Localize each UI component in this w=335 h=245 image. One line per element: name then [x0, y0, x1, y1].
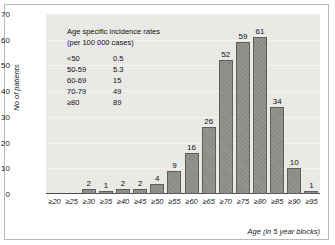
annotation-row: ≥8089 — [67, 98, 123, 109]
x-tick-label: ≥60 — [183, 197, 200, 206]
x-axis-title: Age (in 5 year blocks) — [247, 227, 320, 236]
annotation-rate-value: 0.5 — [113, 54, 123, 65]
bar-slot: 1 — [303, 14, 320, 194]
x-tick-label: ≥80 — [252, 197, 269, 206]
bar — [270, 107, 284, 194]
annotation-rate-value: 15 — [113, 76, 123, 87]
annotation-title-line2: (per 100 000 cases) — [67, 38, 160, 49]
y-axis-title: No of patients — [12, 53, 21, 123]
bar-slot: 26 — [200, 14, 217, 194]
chart-figure: No of patients 010203040506070 212249162… — [4, 4, 329, 240]
x-tick-label: ≥75 — [234, 197, 251, 206]
annotation-age-group: 70-79 — [67, 87, 113, 98]
bar-slot — [46, 14, 63, 194]
annotation-rate-value: 5.3 — [113, 65, 123, 76]
annotation-age-group: <50 — [67, 54, 113, 65]
bar — [116, 189, 130, 194]
bar-slot: 16 — [183, 14, 200, 194]
bar — [150, 184, 164, 194]
x-tick-label: ≥35 — [97, 197, 114, 206]
annotation-row: 50-595.3 — [67, 65, 123, 76]
x-tick-label: ≥70 — [217, 197, 234, 206]
bar — [236, 42, 250, 194]
x-tick-label: ≥85 — [269, 197, 286, 206]
x-tick-label: ≥65 — [200, 197, 217, 206]
x-tick-label: ≥40 — [115, 197, 132, 206]
x-tick-label: ≥20 — [46, 197, 63, 206]
bar-slot: 59 — [234, 14, 251, 194]
x-tick-label: ≥50 — [149, 197, 166, 206]
y-tick-label: 20 — [0, 138, 10, 147]
y-tick-label: 50 — [0, 61, 10, 70]
bar — [219, 60, 233, 194]
y-tick-label: 10 — [0, 164, 10, 173]
annotation-rate-value: 49 — [113, 87, 123, 98]
bar-value-label: 1 — [299, 181, 324, 190]
x-tick-label: ≥90 — [286, 197, 303, 206]
bar-slot: 9 — [166, 14, 183, 194]
y-tick-label: 30 — [0, 112, 10, 121]
y-tick-label: 0 — [0, 190, 10, 199]
annotation-title-line1: Age specific incidence rates — [67, 27, 160, 38]
annotation-rate-value: 89 — [113, 98, 123, 109]
x-tick-label: ≥55 — [166, 197, 183, 206]
x-tick-label: ≥95 — [303, 197, 320, 206]
annotation-table: <500.550-595.360-691570-7949≥8089 — [67, 54, 123, 109]
bar — [99, 191, 113, 194]
annotation-age-group: ≥80 — [67, 98, 113, 109]
bar-slot: 10 — [286, 14, 303, 194]
incidence-rate-annotation: Age specific incidence rates (per 100 00… — [67, 27, 160, 109]
bar — [253, 37, 267, 194]
bar — [304, 191, 318, 194]
y-tick-label: 70 — [0, 10, 10, 19]
bar — [167, 171, 181, 194]
annotation-row: <500.5 — [67, 54, 123, 65]
bar — [133, 189, 147, 194]
x-axis-ticks: ≥20≥25≥30≥35≥40≥45≥50≥55≥60≥65≥70≥75≥80≥… — [46, 195, 320, 211]
x-tick-label: ≥25 — [63, 197, 80, 206]
x-tick-label: ≥45 — [132, 197, 149, 206]
bar — [202, 127, 216, 194]
bar — [185, 153, 199, 194]
annotation-row: 60-6915 — [67, 76, 123, 87]
y-tick-label: 40 — [0, 87, 10, 96]
annotation-age-group: 50-59 — [67, 65, 113, 76]
y-tick-label: 60 — [0, 35, 10, 44]
annotation-age-group: 60-69 — [67, 76, 113, 87]
annotation-row: 70-7949 — [67, 87, 123, 98]
x-tick-label: ≥30 — [80, 197, 97, 206]
